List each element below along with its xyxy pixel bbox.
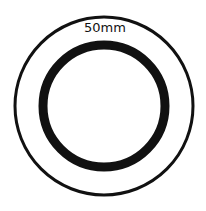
diameter-diagram: 50mm (0, 0, 206, 211)
size-label: 50mm (84, 20, 126, 35)
inner-ring (43, 45, 165, 167)
